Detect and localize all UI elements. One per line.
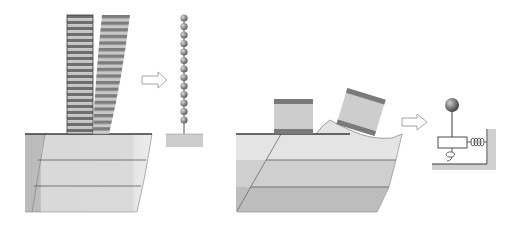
rotational-spring: [446, 148, 454, 161]
right-soil-block: [236, 120, 402, 212]
left-panel: [25, 14, 203, 212]
foundation-block: [438, 137, 467, 148]
upright-banded-column: [67, 15, 93, 134]
translational-spring: [467, 138, 487, 146]
rocking-sway-model: [432, 98, 496, 170]
rigid-block: [274, 99, 313, 134]
mass-ball: [445, 98, 459, 112]
transform-arrow-1: [142, 72, 167, 88]
right-panel: [236, 88, 496, 212]
transform-arrow-2: [402, 114, 427, 130]
leaning-banded-column: [93, 15, 130, 134]
diagram-svg: [0, 0, 519, 228]
left-soil-block: [25, 134, 152, 212]
lumped-mass-chain-model: [166, 14, 203, 147]
wall-shade: [488, 129, 496, 170]
base-block: [166, 134, 203, 147]
diagram-canvas: [0, 0, 519, 228]
floor-shade: [432, 164, 496, 170]
